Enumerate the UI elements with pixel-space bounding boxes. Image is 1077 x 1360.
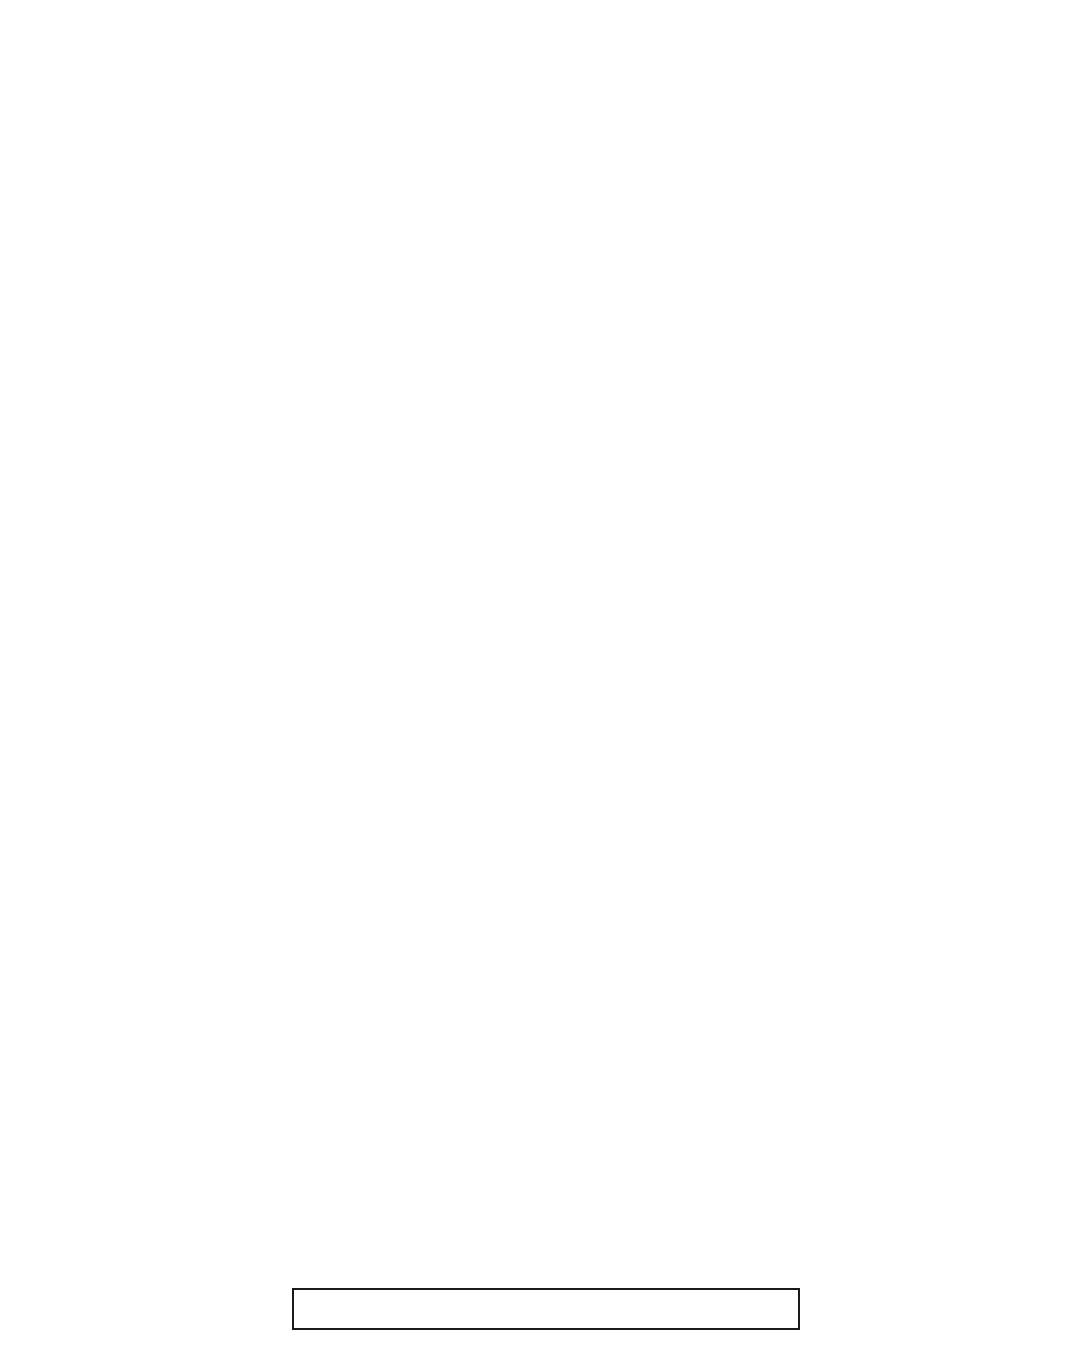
series-legend — [292, 1288, 800, 1330]
